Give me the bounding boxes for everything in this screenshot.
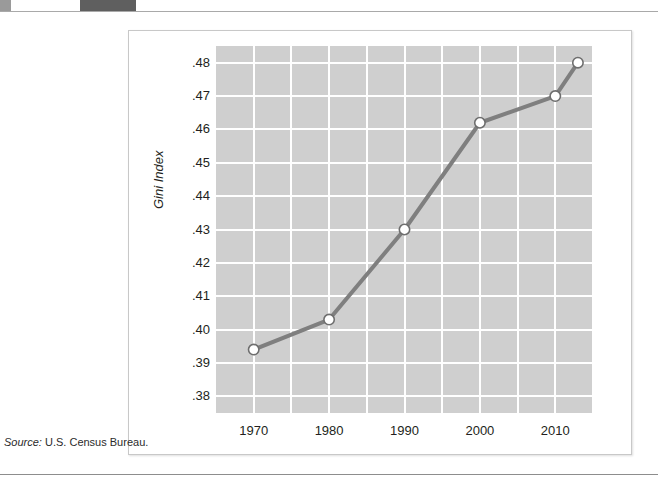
x-axis-tick-label: 1970 — [224, 423, 284, 438]
top-strip-right-block — [136, 0, 658, 11]
data-point-marker — [475, 118, 485, 128]
plot-area — [216, 46, 593, 413]
x-axis-tick-label: 2000 — [450, 423, 510, 438]
y-axis-tick-label: .41 — [192, 289, 210, 302]
page-top-strip — [0, 0, 658, 11]
top-horizontal-rule — [0, 11, 658, 12]
data-point-marker — [324, 314, 334, 324]
data-series-gini-index — [216, 46, 593, 413]
y-axis-tick-label: .42 — [192, 256, 210, 269]
source-note-label: Source: — [4, 436, 42, 448]
y-axis-tick-labels: .38.39.40.41.42.43.44.45.46.47.48 — [169, 46, 210, 413]
data-point-marker — [550, 91, 560, 101]
data-point-marker — [249, 344, 259, 354]
source-note: Source: U.S. Census Bureau. — [4, 436, 148, 448]
y-axis-tick-label: .48 — [192, 56, 210, 69]
source-note-text: U.S. Census Bureau. — [45, 436, 148, 448]
gini-index-line-chart: Gini Index .38.39.40.41.42.43.44.45.46.4… — [129, 31, 633, 456]
y-axis-tick-label: .45 — [192, 156, 210, 169]
figure-card: Gini Index .38.39.40.41.42.43.44.45.46.4… — [128, 30, 632, 455]
y-axis-tick-label: .44 — [192, 189, 210, 202]
y-axis-tick-label: .47 — [192, 89, 210, 102]
y-axis-tick-label: .40 — [192, 323, 210, 336]
top-strip-left-block — [0, 0, 11, 11]
y-axis-tick-label: .43 — [192, 223, 210, 236]
y-axis-tick-label: .38 — [192, 389, 210, 402]
x-axis-tick-labels: 19701980199020002010 — [216, 423, 593, 443]
data-point-marker — [573, 57, 583, 67]
y-axis-title: Gini Index — [151, 150, 166, 209]
x-axis-tick-label: 1990 — [375, 423, 435, 438]
series-line — [254, 63, 578, 350]
bottom-horizontal-rule — [0, 474, 658, 475]
data-point-marker — [399, 224, 409, 234]
x-axis-tick-label: 1980 — [299, 423, 359, 438]
y-axis-tick-label: .46 — [192, 122, 210, 135]
x-axis-tick-label: 2010 — [525, 423, 585, 438]
y-axis-tick-label: .39 — [192, 356, 210, 369]
top-strip-dark-block — [80, 0, 136, 11]
